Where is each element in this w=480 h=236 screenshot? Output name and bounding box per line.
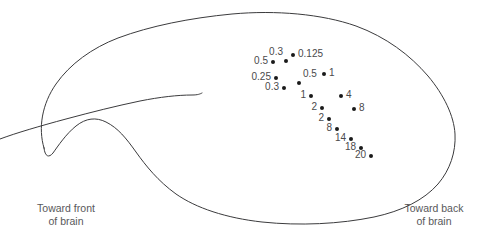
data-point-marker [352, 107, 356, 111]
data-point-marker [327, 117, 331, 121]
data-point-marker [284, 59, 288, 63]
caption-front-line1: Toward front [37, 202, 95, 214]
data-point-marker [335, 127, 339, 131]
data-point-label: 1 [300, 90, 306, 100]
data-point-label: 0.5 [254, 56, 268, 66]
data-point-label: 20 [355, 150, 366, 160]
data-point-marker [282, 86, 286, 90]
data-point-marker [291, 53, 295, 57]
caption-toward-front: Toward front of brain [18, 202, 114, 228]
data-point-label: 0.5 [303, 69, 317, 79]
data-point-marker [369, 154, 373, 158]
data-point-label: 0.3 [265, 82, 279, 92]
data-point-label: 1 [329, 68, 335, 78]
data-point-label: 8 [359, 103, 365, 113]
caption-back-line1: Toward back [405, 202, 464, 214]
caption-toward-back: Toward back of brain [392, 202, 476, 228]
data-point-label: 0.125 [298, 49, 323, 59]
data-point-marker [320, 106, 324, 110]
data-point-marker [339, 94, 343, 98]
data-point-label: 2 [311, 102, 317, 112]
data-point-label: 4 [346, 90, 352, 100]
data-point-marker [322, 72, 326, 76]
data-point-label: 8 [326, 123, 332, 133]
data-point-marker [271, 60, 275, 64]
data-point-marker [309, 94, 313, 98]
caption-front-line2: of brain [18, 215, 114, 228]
data-point-label: 2 [318, 113, 324, 123]
data-point-marker [297, 81, 301, 85]
data-point-marker [274, 76, 278, 80]
data-point-label: 0.3 [269, 47, 283, 57]
caption-back-line2: of brain [392, 215, 476, 228]
data-points-layer: 0.30.1250.50.250.30.51122488141820 [0, 0, 480, 236]
brain-tonotopy-figure: 0.30.1250.50.250.30.51122488141820 Towar… [0, 0, 480, 236]
